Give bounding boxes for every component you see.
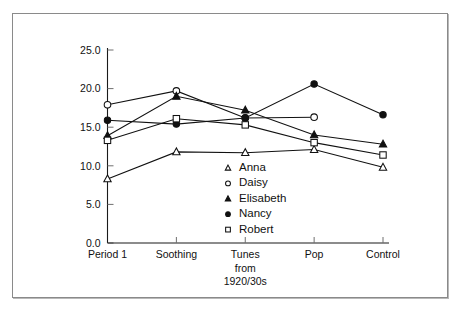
legend-item-nancy[interactable]: Nancy (226, 207, 272, 219)
legend-label: Daisy (239, 176, 268, 188)
legend-label: Elisabeth (239, 192, 286, 204)
marker-open-triangle (310, 146, 317, 153)
series-line (108, 91, 315, 118)
marker-filled-circle (104, 117, 110, 123)
x-tick-label: Soothing (156, 248, 198, 260)
y-tick-label: 0.0 (86, 237, 101, 249)
marker-open-square (311, 139, 317, 145)
series-daisy (104, 88, 317, 122)
marker-filled-circle (226, 212, 231, 217)
marker-open-circle (104, 102, 111, 109)
x-tick-label: Tunes (231, 248, 260, 260)
legend-label: Anna (239, 161, 266, 173)
y-tick-label: 5.0 (86, 198, 101, 210)
series-nancy (104, 81, 386, 128)
y-tick-label: 15.0 (80, 121, 101, 133)
marker-open-triangle (225, 165, 230, 170)
x-tick-label: Control (366, 248, 400, 260)
marker-filled-circle (242, 115, 248, 121)
legend-label: Nancy (239, 207, 272, 219)
marker-open-square (173, 116, 179, 122)
x-axis: Period 1SoothingTunesfrom1920/30sPopCont… (88, 237, 400, 287)
marker-open-circle (226, 181, 231, 186)
legend-item-anna[interactable]: Anna (225, 161, 266, 173)
y-tick-label: 25.0 (80, 44, 101, 56)
x-tick-label: Period 1 (88, 248, 127, 260)
x-tick-label: 1920/30s (224, 275, 267, 287)
marker-open-circle (311, 114, 318, 121)
marker-filled-circle (311, 81, 317, 87)
marker-open-square (242, 122, 248, 128)
legend-label: Robert (239, 223, 274, 235)
legend-item-elisabeth[interactable]: Elisabeth (225, 192, 286, 204)
marker-open-triangle (173, 148, 180, 155)
y-axis: 0.05.010.015.020.025.0 (80, 44, 113, 249)
x-tick-label: Pop (305, 248, 324, 260)
marker-open-square (226, 227, 231, 232)
marker-open-square (380, 152, 386, 158)
chart-figure: 0.05.010.015.020.025.0 Period 1SoothingT… (0, 0, 465, 315)
x-tick-label: from (235, 262, 256, 274)
legend-item-robert[interactable]: Robert (226, 223, 275, 235)
legend-item-daisy[interactable]: Daisy (226, 176, 268, 188)
line-chart-svg: 0.05.010.015.020.025.0 Period 1SoothingT… (0, 0, 465, 315)
marker-open-square (104, 137, 110, 143)
marker-filled-triangle (225, 196, 230, 201)
y-tick-label: 10.0 (80, 160, 101, 172)
y-tick-label: 20.0 (80, 82, 101, 94)
marker-filled-circle (380, 112, 386, 118)
chart-legend: AnnaDaisyElisabethNancyRobert (225, 161, 286, 235)
